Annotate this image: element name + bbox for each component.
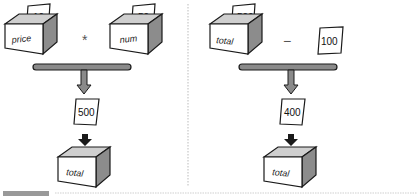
- svg-text:total: total: [216, 35, 235, 47]
- result-card-left: 500: [74, 99, 99, 125]
- box-price: 10 price: [5, 4, 57, 54]
- combine-bar-right: [239, 64, 337, 70]
- assignment-diagram: 10 price * 50 num 500 total 500 total − …: [0, 0, 417, 196]
- value-card-100: 100: [318, 27, 343, 54]
- operator-multiply: *: [82, 32, 88, 48]
- box-num: 50 num: [110, 4, 162, 54]
- box-total-right: total: [264, 147, 316, 187]
- result-card-right: 400: [280, 99, 305, 125]
- svg-text:price: price: [10, 33, 31, 45]
- svg-text:500: 500: [78, 107, 95, 118]
- operator-minus: −: [283, 33, 291, 49]
- combine-bar-left: [33, 64, 131, 70]
- box-total-source: 500 total: [210, 4, 262, 54]
- svg-text:total: total: [66, 167, 85, 179]
- svg-text:total: total: [272, 167, 291, 179]
- svg-text:400: 400: [284, 107, 301, 118]
- box-total-left: total: [58, 147, 110, 187]
- svg-text:100: 100: [321, 36, 338, 47]
- svg-text:num: num: [119, 33, 138, 45]
